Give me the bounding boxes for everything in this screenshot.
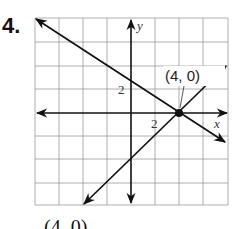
coordinate-graph: y x 2 2 (4, 0) bbox=[0, 0, 232, 229]
x-tick-label: 2 bbox=[151, 116, 158, 131]
x-axis-label: x bbox=[213, 116, 220, 131]
y-tick-label: 2 bbox=[118, 82, 125, 97]
intersection-point bbox=[175, 109, 183, 117]
answer-text: (4, 0) bbox=[44, 216, 87, 229]
intersection-label: (4, 0) bbox=[165, 67, 200, 84]
y-axis-label: y bbox=[135, 18, 143, 33]
